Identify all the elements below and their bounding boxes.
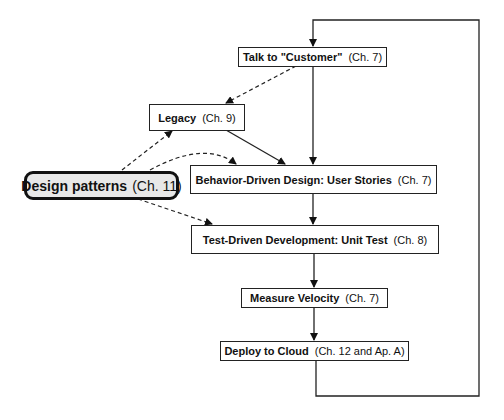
node-label: Deploy to Cloud	[224, 345, 308, 357]
edge-talk-to-legacy	[226, 66, 296, 103]
node-bdd-user-stories: Behavior-Driven Design: User Stories(Ch.…	[190, 165, 437, 194]
node-label: Behavior-Driven Design: User Stories	[196, 174, 392, 186]
edge-loop-deploy-to-talk	[313, 20, 479, 396]
node-deploy-to-cloud: Deploy to Cloud(Ch. 12 and Ap. A)	[220, 341, 409, 361]
node-label: Test-Driven Development: Unit Test	[203, 234, 388, 246]
node-legacy: Legacy(Ch. 9)	[149, 104, 245, 131]
chapter-ref: (Ch. 12 and Ap. A)	[315, 345, 405, 357]
chapter-ref: (Ch. 11)	[132, 178, 182, 194]
chapter-ref: (Ch. 8)	[394, 234, 428, 246]
chapter-ref: (Ch. 7)	[345, 292, 379, 304]
node-tdd-unit-test: Test-Driven Development: Unit Test(Ch. 8…	[191, 225, 439, 254]
node-measure-velocity: Measure Velocity(Ch. 7)	[241, 288, 388, 308]
node-label: Legacy	[158, 112, 196, 124]
edge-dp-to-legacy	[122, 131, 172, 170]
node-design-patterns: Design patterns(Ch. 11)	[24, 171, 179, 200]
chapter-ref: (Ch. 7)	[398, 174, 432, 186]
node-talk-to-customer: Talk to "Customer"(Ch. 7)	[238, 47, 387, 67]
node-label: Design patterns	[21, 178, 127, 194]
node-label: Measure Velocity	[250, 292, 339, 304]
edge-legacy-to-bdd	[226, 130, 285, 164]
chapter-ref: (Ch. 9)	[202, 112, 236, 124]
node-label: Talk to "Customer"	[243, 51, 342, 63]
edge-dp-to-tdd	[138, 199, 212, 224]
chapter-ref: (Ch. 7)	[348, 51, 382, 63]
